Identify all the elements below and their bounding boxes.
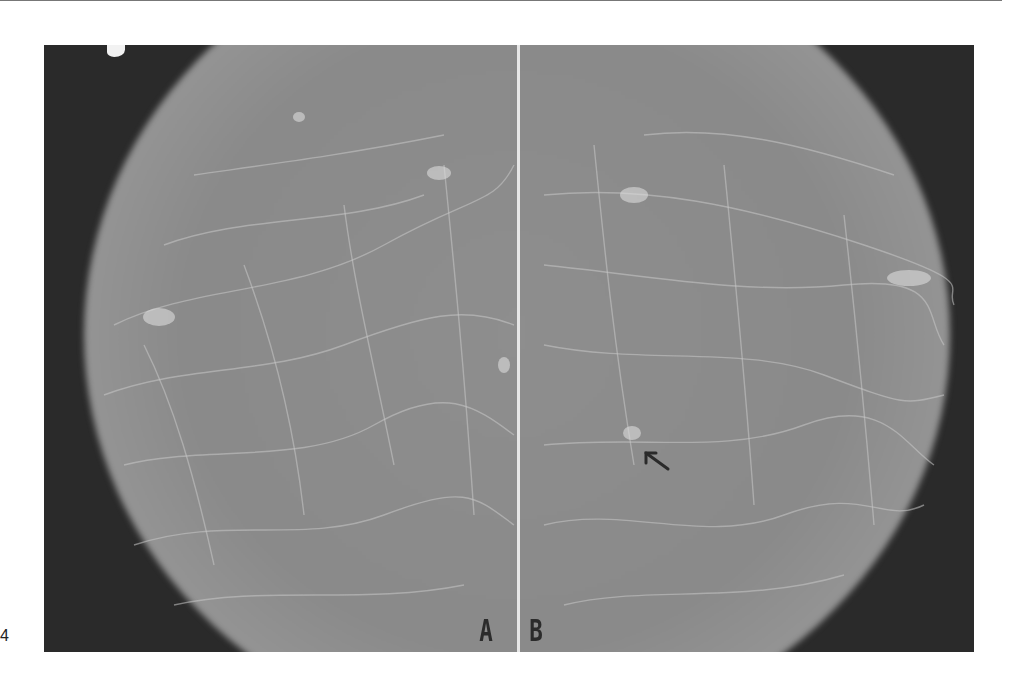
figure-number: 4	[0, 627, 9, 645]
top-rule	[0, 0, 1002, 1]
panel-label-a: A	[479, 613, 493, 648]
tissue-strands	[44, 45, 974, 652]
mammogram-image: A B	[44, 45, 974, 652]
arrow-annotation-icon	[638, 445, 674, 475]
panel-label-b: B	[529, 613, 543, 648]
panel-divider	[517, 45, 520, 652]
